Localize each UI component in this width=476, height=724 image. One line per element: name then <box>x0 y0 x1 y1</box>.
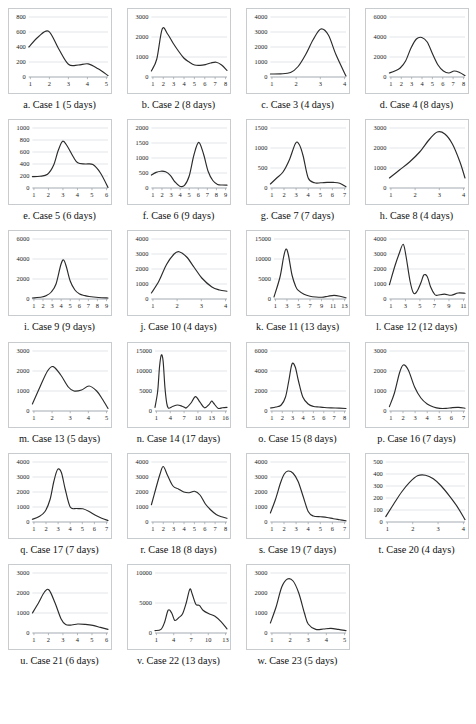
chart-case-19: 010002000300040001234567 <box>246 453 350 539</box>
panel-case-17: 010002000300040001234567q. Case 17 (7 da… <box>0 453 119 564</box>
svg-text:1000: 1000 <box>135 155 148 162</box>
svg-text:4000: 4000 <box>135 236 148 243</box>
svg-text:5: 5 <box>342 636 345 643</box>
svg-text:6000: 6000 <box>16 236 29 243</box>
caption-case-3: c. Case 3 (4 days) <box>261 99 334 110</box>
svg-text:1000: 1000 <box>373 281 386 288</box>
panel-case-7: 0500100015001234567g. Case 7 (7 days) <box>238 119 357 230</box>
chart-case-16: 01000200030001234567 <box>365 342 469 428</box>
caption-case-16: p. Case 16 (7 days) <box>377 433 455 444</box>
caption-case-6: f. Case 6 (9 days) <box>143 210 215 221</box>
svg-text:2: 2 <box>413 191 416 198</box>
svg-text:7: 7 <box>189 636 193 643</box>
svg-text:1: 1 <box>151 191 154 198</box>
svg-text:5000: 5000 <box>258 276 271 283</box>
svg-text:11: 11 <box>460 303 466 310</box>
svg-text:1: 1 <box>389 303 392 310</box>
svg-text:2: 2 <box>160 191 163 198</box>
svg-text:3: 3 <box>436 525 439 532</box>
panel-case-2: 010002000300012345678b. Case 2 (8 days) <box>119 8 238 119</box>
svg-text:4: 4 <box>461 525 465 532</box>
caption-case-14: n. Case 14 (17 days) <box>137 433 220 444</box>
svg-text:2000: 2000 <box>254 387 267 394</box>
svg-text:3: 3 <box>56 525 59 532</box>
svg-text:4: 4 <box>306 525 310 532</box>
svg-text:3000: 3000 <box>16 569 29 576</box>
svg-text:6000: 6000 <box>254 347 267 354</box>
chart-case-1: 020040060080012345 <box>8 8 112 94</box>
svg-text:7: 7 <box>432 303 436 310</box>
svg-text:2000: 2000 <box>254 488 267 495</box>
caption-case-8: h. Case 8 (4 days) <box>380 210 453 221</box>
svg-text:11: 11 <box>329 303 335 310</box>
svg-text:2: 2 <box>161 80 164 87</box>
svg-text:3: 3 <box>199 303 202 310</box>
svg-text:0: 0 <box>26 407 29 414</box>
caption-case-18: r. Case 18 (8 days) <box>140 544 216 555</box>
panel-case-9: 0200040006000123456789i. Case 9 (9 days) <box>0 230 119 341</box>
svg-text:1: 1 <box>270 636 273 643</box>
panel-row: 010002000300040001234567q. Case 17 (7 da… <box>0 453 476 564</box>
svg-text:1000: 1000 <box>373 387 386 394</box>
svg-text:600: 600 <box>19 149 29 156</box>
svg-text:4: 4 <box>182 525 186 532</box>
svg-text:1000: 1000 <box>135 281 148 288</box>
panel-row: 02004006008001000123456e. Case 5 (6 days… <box>0 119 476 230</box>
panel-case-16: 01000200030001234567p. Case 16 (7 days) <box>357 342 476 453</box>
svg-text:1000: 1000 <box>254 58 267 65</box>
svg-text:4: 4 <box>86 414 90 421</box>
svg-text:1: 1 <box>151 80 154 87</box>
svg-text:1: 1 <box>32 414 35 421</box>
svg-text:7: 7 <box>213 80 217 87</box>
caption-case-1: a. Case 1 (5 days) <box>23 99 96 110</box>
svg-text:1000: 1000 <box>254 503 267 510</box>
chart-case-11: 050001000015000135791113 <box>246 230 350 316</box>
chart-case-22: 05000100001471013 <box>127 564 231 650</box>
svg-text:2: 2 <box>44 525 47 532</box>
svg-text:3000: 3000 <box>135 251 148 258</box>
svg-text:5: 5 <box>296 303 299 310</box>
svg-text:8: 8 <box>461 80 464 87</box>
caption-case-7: g. Case 7 (7 days) <box>261 210 334 221</box>
svg-text:6: 6 <box>441 80 444 87</box>
svg-text:4000: 4000 <box>373 236 386 243</box>
svg-text:3000: 3000 <box>16 473 29 480</box>
svg-text:3000: 3000 <box>135 473 148 480</box>
panel-case-5: 02004006008001000123456e. Case 5 (6 days… <box>0 119 119 230</box>
svg-text:4: 4 <box>223 303 227 310</box>
svg-text:0: 0 <box>22 73 25 80</box>
svg-text:3: 3 <box>50 303 53 310</box>
svg-text:1000: 1000 <box>254 609 267 616</box>
svg-text:0: 0 <box>145 73 148 80</box>
svg-text:5000: 5000 <box>139 387 152 394</box>
svg-text:3000: 3000 <box>373 125 386 132</box>
svg-text:2: 2 <box>46 191 49 198</box>
svg-text:13: 13 <box>341 303 347 310</box>
svg-text:1: 1 <box>28 80 31 87</box>
svg-text:3000: 3000 <box>254 473 267 480</box>
svg-text:6: 6 <box>104 191 107 198</box>
svg-text:0: 0 <box>383 296 386 303</box>
caption-case-10: j. Case 10 (4 days) <box>140 321 216 332</box>
svg-text:2: 2 <box>288 636 291 643</box>
svg-text:2: 2 <box>50 414 53 421</box>
svg-text:5: 5 <box>318 525 321 532</box>
svg-text:2000: 2000 <box>373 145 386 152</box>
svg-text:1: 1 <box>154 414 157 421</box>
svg-text:10: 10 <box>205 636 211 643</box>
panel-row: 020040060080012345a. Case 1 (5 days)0100… <box>0 8 476 119</box>
svg-text:4000: 4000 <box>254 13 267 20</box>
svg-text:0: 0 <box>267 296 270 303</box>
svg-text:3: 3 <box>294 191 297 198</box>
svg-text:1000: 1000 <box>16 503 29 510</box>
svg-text:4: 4 <box>75 636 79 643</box>
chart-case-20: 01002003004005001234 <box>365 453 469 539</box>
svg-text:6: 6 <box>77 303 80 310</box>
svg-text:0: 0 <box>26 629 29 636</box>
svg-text:4000: 4000 <box>135 458 148 465</box>
svg-text:4: 4 <box>182 80 186 87</box>
svg-text:1: 1 <box>32 191 35 198</box>
svg-text:3: 3 <box>172 80 175 87</box>
panel-case-18: 0100020003000400012345678r. Case 18 (8 d… <box>119 453 238 564</box>
svg-text:7: 7 <box>332 414 336 421</box>
